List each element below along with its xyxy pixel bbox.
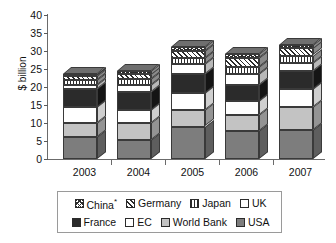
legend-label: UK: [252, 198, 267, 209]
legend-item[interactable]: USA: [236, 217, 270, 228]
bar-segment-usa: [117, 140, 151, 159]
legend-item[interactable]: EC: [125, 217, 152, 228]
bar-segment-china-: [171, 47, 205, 51]
legend-swatch-icon: [161, 218, 170, 227]
bar-segment-usa: [225, 131, 259, 159]
bar-segment-ec: [171, 93, 205, 110]
bar-segment-france: [279, 71, 313, 89]
legend-label: Germany: [138, 198, 181, 209]
y-axis-tick-label: 25: [16, 64, 42, 74]
y-axis-tick-label: 10: [16, 118, 42, 128]
legend-item[interactable]: World Bank: [161, 217, 227, 228]
x-axis-tick-mark: [273, 160, 274, 165]
y-axis-tick-mark: [44, 33, 48, 34]
legend-swatch-icon: [126, 199, 135, 208]
legend-swatch-icon: [236, 218, 245, 227]
bar-segment-japan: [117, 79, 151, 85]
legend-label: China*: [87, 196, 118, 211]
bar-segment-china-: [117, 71, 151, 75]
y-axis-tick-label: 40: [16, 10, 42, 20]
bar-segment-usa: [279, 130, 313, 159]
legend-swatch-icon: [240, 199, 249, 208]
x-axis-tick-mark: [111, 160, 112, 165]
bar-segment-japan: [225, 67, 259, 74]
x-axis-line: [47, 159, 325, 160]
y-axis-tick-label: 35: [16, 28, 42, 38]
y-axis-tick-mark: [44, 105, 48, 106]
bar-segment-ec: [117, 110, 151, 123]
bar-segment-china-: [225, 54, 259, 58]
legend-item[interactable]: Japan: [190, 198, 231, 209]
bar-segment-usa: [171, 127, 205, 159]
bar-segment-ec: [225, 101, 259, 115]
bar-segment-china-: [279, 45, 313, 49]
legend: China*GermanyJapanUK FranceECWorld BankU…: [57, 191, 282, 233]
bar-segment-france: [171, 74, 205, 93]
y-axis-tick-mark: [44, 69, 48, 70]
bar-segment-germany: [171, 51, 205, 58]
legend-row-top: China*GermanyJapanUK: [58, 194, 283, 212]
bar-segment-world-bank: [63, 123, 97, 137]
bar-segment-uk: [225, 74, 259, 85]
y-axis-tick-mark: [44, 159, 48, 160]
y-axis-tick-label: 30: [16, 46, 42, 56]
y-axis-tick-label: 5: [16, 136, 42, 146]
bar-segment-world-bank: [171, 110, 205, 126]
legend-label: France: [84, 217, 117, 228]
legend-item[interactable]: Germany: [126, 198, 181, 209]
bar-segment-france: [117, 92, 151, 110]
y-axis-tick-mark: [44, 141, 48, 142]
bar-segment-world-bank: [117, 123, 151, 140]
y-axis-tick-mark: [44, 123, 48, 124]
bar-segment-uk: [63, 85, 97, 89]
x-axis-tick-label: 2003: [58, 166, 112, 178]
bar-segment-germany: [279, 48, 313, 55]
y-axis-tick-label: 20: [16, 82, 42, 92]
legend-label: USA: [248, 217, 270, 228]
legend-swatch-icon: [75, 199, 84, 208]
legend-item[interactable]: France: [72, 217, 117, 228]
bar-segment-germany: [63, 76, 97, 80]
x-axis-tick-label: 2007: [274, 166, 328, 178]
bar-segment-france: [225, 85, 259, 101]
bar-segment-usa: [63, 137, 97, 159]
legend-label: Japan: [202, 198, 231, 209]
bar-segment-china-: [63, 74, 97, 76]
legend-swatch-icon: [72, 218, 81, 227]
bar-segment-japan: [63, 80, 97, 85]
bar-segment-ec: [63, 107, 97, 123]
x-axis-tick-mark: [219, 160, 220, 165]
y-axis-tick-mark: [44, 87, 48, 88]
x-axis-tick-label: 2004: [112, 166, 166, 178]
legend-row-bottom: FranceECWorld BankUSA: [58, 213, 283, 231]
legend-item[interactable]: UK: [240, 198, 267, 209]
stacked-bar-chart: $ billion 4035302520151050 2003200420052…: [0, 0, 336, 243]
bar-segment-uk: [171, 64, 205, 74]
bar-segment-germany: [117, 74, 151, 79]
bar-segment-uk: [117, 85, 151, 92]
y-axis-tick-mark: [44, 15, 48, 16]
legend-item[interactable]: China*: [75, 196, 118, 211]
bar-segment-germany: [225, 58, 259, 67]
x-axis-tick-label: 2006: [220, 166, 274, 178]
x-axis-tick-label: 2005: [166, 166, 220, 178]
bar-segment-world-bank: [225, 115, 259, 131]
bar-segment-ec: [279, 89, 313, 107]
legend-label: EC: [137, 217, 152, 228]
bar-segment-france: [63, 89, 97, 107]
bar-segment-japan: [171, 58, 205, 64]
bar-segment-japan: [279, 56, 313, 63]
x-axis-tick-mark: [165, 160, 166, 165]
legend-swatch-icon: [125, 218, 134, 227]
y-axis-tick-label: 0: [16, 154, 42, 164]
y-axis-tick-mark: [44, 51, 48, 52]
bar-segment-world-bank: [279, 107, 313, 130]
legend-label: World Bank: [173, 217, 227, 228]
bar-segment-side: [205, 120, 214, 159]
legend-swatch-icon: [190, 199, 199, 208]
y-axis-tick-label: 15: [16, 100, 42, 110]
bar-segment-uk: [279, 63, 313, 71]
